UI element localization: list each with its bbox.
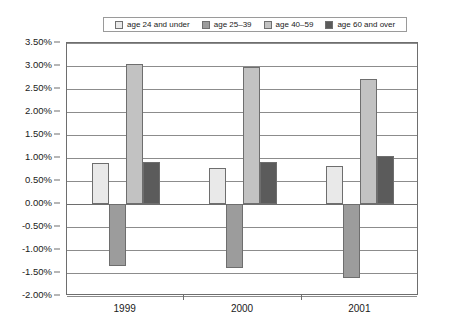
bar: [360, 79, 377, 204]
gridline: [67, 43, 417, 44]
y-axis-tick-label: 1.00%: [25, 152, 52, 162]
plot-area: [66, 42, 418, 295]
bar: [260, 162, 277, 204]
y-axis: 3.50%3.00%2.50%2.00%1.50%1.00%0.50%0.00%…: [0, 42, 60, 295]
y-axis-tick-mark: [54, 295, 60, 296]
bar: [92, 163, 109, 204]
y-axis-tick-label: -1.50%: [22, 267, 52, 277]
legend-item-label: age 40–59: [276, 21, 314, 29]
y-axis-tick-mark: [54, 249, 60, 250]
y-axis-tick-label: -2.00%: [22, 290, 52, 300]
chart-legend: age 24 and underage 25–39age 40–59age 60…: [103, 17, 407, 32]
bar: [143, 162, 160, 204]
y-axis-tick-label: 3.50%: [25, 37, 52, 47]
y-axis-tick-label: 1.50%: [25, 129, 52, 139]
bar: [326, 166, 343, 204]
y-axis-tick-mark: [54, 157, 60, 158]
legend-item-3[interactable]: age 40–59: [264, 21, 314, 29]
bar: [243, 67, 260, 204]
x-axis: 199920002001: [66, 295, 418, 325]
legend-item-label: age 24 and under: [127, 21, 190, 29]
y-axis-tick-label: 3.00%: [25, 60, 52, 70]
y-axis-tick-mark: [54, 65, 60, 66]
bar: [209, 168, 226, 204]
legend-swatch-icon: [202, 21, 210, 29]
legend-item-2[interactable]: age 25–39: [202, 21, 252, 29]
y-axis-tick-mark: [54, 42, 60, 43]
y-axis-tick-mark: [54, 88, 60, 89]
x-axis-tick-mark: [183, 295, 184, 300]
gridline: [67, 66, 417, 67]
y-axis-tick-mark: [54, 203, 60, 204]
bar: [226, 204, 243, 268]
bar: [343, 204, 360, 278]
x-axis-tick-label: 1999: [114, 304, 136, 314]
bar: [377, 156, 394, 204]
y-axis-tick-mark: [54, 180, 60, 181]
legend-swatch-icon: [264, 21, 272, 29]
y-axis-tick-label: 2.00%: [25, 106, 52, 116]
x-axis-tick-label: 2000: [231, 304, 253, 314]
y-axis-tick-mark: [54, 111, 60, 112]
y-axis-tick-mark: [54, 226, 60, 227]
y-axis-tick-label: 0.50%: [25, 175, 52, 185]
legend-swatch-icon: [325, 21, 333, 29]
legend-swatch-icon: [115, 21, 123, 29]
y-axis-tick-mark: [54, 272, 60, 273]
legend-item-label: age 25–39: [214, 21, 252, 29]
y-axis-tick-label: 2.50%: [25, 83, 52, 93]
y-axis-tick-label: -1.00%: [22, 244, 52, 254]
y-axis-tick-label: 0.00%: [25, 198, 52, 208]
legend-item-label: age 60 and over: [337, 21, 395, 29]
bar: [109, 204, 126, 266]
y-axis-tick-label: -0.50%: [22, 221, 52, 231]
bar: [126, 64, 143, 204]
legend-item-1[interactable]: age 24 and under: [115, 21, 190, 29]
chart-container: age 24 and underage 25–39age 40–59age 60…: [0, 0, 453, 331]
gridline: [67, 273, 417, 274]
y-axis-tick-mark: [54, 134, 60, 135]
x-axis-tick-mark: [301, 295, 302, 300]
x-axis-tick-label: 2001: [348, 304, 370, 314]
legend-item-4[interactable]: age 60 and over: [325, 21, 395, 29]
